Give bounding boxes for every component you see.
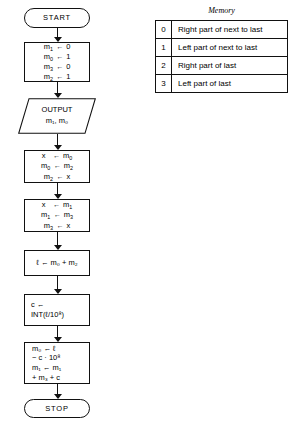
flow-node-output-operands: m₁, m₀: [42, 116, 73, 127]
connector-start-to-init: [53, 28, 62, 42]
connector-swap-b-to-sum: [53, 232, 62, 250]
connector-init-to-output: [53, 82, 62, 98]
connector-carry-to-reduce: [53, 326, 62, 342]
connector-sum-to-carry: [53, 276, 62, 294]
connector-stem: [57, 134, 58, 145]
memory-panel: Memory 0 Right part of next to last 1 Le…: [155, 6, 288, 96]
flow-node-reduce-line1: m₀ ← ℓ: [32, 344, 55, 354]
flow-line-init-1: m1 ← 0: [44, 42, 71, 52]
connector-stem: [57, 232, 58, 245]
flow-node-swap-a: x ← m0 m0 ← m2 m2 ← x: [24, 150, 90, 183]
connector-stem: [57, 183, 58, 194]
connector-stem: [57, 276, 58, 289]
flow-node-output-text: OUTPUT m₁, m₀: [42, 105, 73, 127]
flow-node-output-label: OUTPUT: [42, 105, 73, 116]
flow-node-carry-line2: INT(ℓ/10⁸): [31, 310, 64, 320]
flow-line-init-2: m0 ← 1: [44, 52, 71, 62]
flow-line-swap-a-2: m0 ← m2: [41, 161, 73, 171]
connector-output-to-swap-a: [53, 134, 62, 150]
flow-node-carry: c ← INT(ℓ/10⁸): [24, 294, 90, 326]
flow-node-reduce-line4: + m₃ + c: [32, 373, 60, 383]
table-row: 0 Right part of next to last: [156, 21, 288, 39]
connector-reduce-to-stop: [53, 384, 62, 399]
flow-node-carry-line1: c ←: [31, 300, 44, 310]
flow-line-swap-a-1: x ← m0: [42, 151, 72, 161]
flow-node-stop: STOP: [24, 399, 90, 418]
flow-node-reduce-line3: m₁ ← m₁: [32, 363, 61, 373]
flow-node-output: OUTPUT m₁, m₀: [18, 98, 96, 134]
flow-line-swap-b-1: x ← m1: [42, 200, 72, 210]
flow-node-stop-label: STOP: [45, 404, 68, 414]
flow-node-sum: ℓ ← m₀ + m₂: [24, 250, 90, 276]
memory-index-3: 3: [156, 75, 172, 93]
flow-node-swap-b: x ← m1 m1 ← m3 m3 ← x: [24, 199, 90, 232]
memory-index-1: 1: [156, 39, 172, 57]
memory-index-2: 2: [156, 57, 172, 75]
flow-line-swap-a-3: m2 ← x: [44, 172, 70, 182]
connector-stem: [57, 326, 58, 337]
flow-node-reduce: m₀ ← ℓ − c · 10⁸ m₁ ← m₁ + m₃ + c: [24, 342, 90, 384]
flow-line-swap-b-2: m1 ← m3: [41, 210, 73, 220]
table-row: 3 Left part of last: [156, 75, 288, 93]
flow-node-sum-expr: ℓ ← m₀ + m₂: [36, 258, 77, 268]
flow-node-init: m1 ← 0 m0 ← 1 m3 ← 0 m2 ← 1: [24, 42, 90, 82]
memory-description-0: Right part of next to last: [172, 21, 288, 39]
memory-table: 0 Right part of next to last 1 Left part…: [155, 20, 288, 93]
memory-description-2: Right part of last: [172, 57, 288, 75]
flow-line-swap-b-3: m3 ← x: [44, 221, 70, 231]
flow-line-init-3: m3 ← 0: [44, 62, 71, 72]
memory-description-3: Left part of last: [172, 75, 288, 93]
connector-stem: [57, 384, 58, 394]
flowchart-diagram: START m1 ← 0 m0 ← 1 m3 ← 0 m2 ← 1 OUTPUT…: [0, 0, 146, 424]
flow-line-init-4: m2 ← 1: [44, 72, 71, 82]
connector-swap-a-to-swap-b: [53, 183, 62, 199]
flow-node-reduce-line2: − c · 10⁸: [32, 353, 60, 363]
memory-title: Memory: [155, 6, 288, 15]
flowchart-page: START m1 ← 0 m0 ← 1 m3 ← 0 m2 ← 1 OUTPUT…: [0, 0, 294, 424]
flow-node-start: START: [24, 8, 90, 28]
memory-index-0: 0: [156, 21, 172, 39]
connector-stem: [57, 82, 58, 93]
table-row: 2 Right part of last: [156, 57, 288, 75]
connector-stem: [57, 28, 58, 37]
flow-node-start-label: START: [43, 13, 71, 23]
table-row: 1 Left part of next to last: [156, 39, 288, 57]
memory-description-1: Left part of next to last: [172, 39, 288, 57]
